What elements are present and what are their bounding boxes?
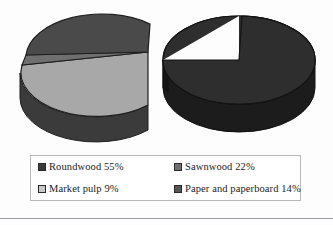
legend-item-market-pulp[interactable]: Market pulp 9% [31, 184, 171, 195]
legend-swatch-roundwood [38, 163, 46, 171]
legend-label-roundwood: Roundwood 55% [49, 162, 124, 173]
pie-slice-paper-and-paperboard[interactable] [26, 14, 150, 55]
pie-chart-svg [0, 4, 333, 149]
legend-swatch-paper-and-paperboard [174, 185, 182, 193]
bottom-horizontal-rule [0, 218, 333, 219]
chart-legend: Roundwood 55% Sawnwood 22% Market pulp 9… [30, 155, 301, 201]
chart-figure: Roundwood 55% Sawnwood 22% Market pulp 9… [0, 0, 333, 225]
legend-label-sawnwood: Sawnwood 22% [185, 162, 255, 173]
legend-item-roundwood[interactable]: Roundwood 55% [31, 162, 171, 173]
pie-chart-plot-area [0, 4, 333, 149]
legend-label-market-pulp: Market pulp 9% [49, 184, 119, 195]
legend-label-paper-and-paperboard: Paper and paperboard 14% [185, 184, 301, 195]
pie-slice-roundwood[interactable] [163, 16, 315, 132]
legend-swatch-market-pulp [38, 185, 46, 193]
legend-item-paper-and-paperboard[interactable]: Paper and paperboard 14% [171, 184, 301, 195]
legend-swatch-sawnwood [174, 163, 182, 171]
legend-item-sawnwood[interactable]: Sawnwood 22% [171, 162, 301, 173]
